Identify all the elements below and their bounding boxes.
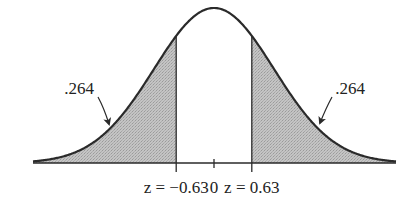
axis-label-left: z = −0.63 <box>144 178 209 197</box>
normal-distribution-diagram: z = −0.63 0 z = 0.63 .264 .264 <box>0 0 415 200</box>
left-tail-shaded-region <box>33 36 176 163</box>
axis-label-center: 0 <box>210 178 219 197</box>
right-tail-area-label: .264 <box>335 79 365 98</box>
axis-label-right: z = 0.63 <box>224 178 279 197</box>
right-arrow-icon <box>320 97 332 123</box>
left-arrow-icon <box>98 97 109 124</box>
right-tail-shaded-region <box>252 36 396 163</box>
left-tail-area-label: .264 <box>64 79 94 98</box>
